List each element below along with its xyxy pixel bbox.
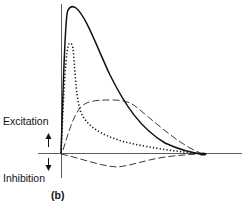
inhibition-label: Inhibition (3, 172, 45, 184)
solid-curve (61, 7, 203, 154)
excitation-label: Excitation (3, 115, 49, 127)
excitation-arrow-up-icon (46, 133, 52, 147)
panel-label: (b) (51, 189, 64, 201)
dotted-curve (61, 43, 203, 154)
inhibition-arrow-down-icon (46, 158, 52, 171)
dashed-excitation-curve (63, 100, 203, 154)
convergence-point (200, 153, 207, 156)
dashed-inhibition-curve (61, 154, 203, 167)
